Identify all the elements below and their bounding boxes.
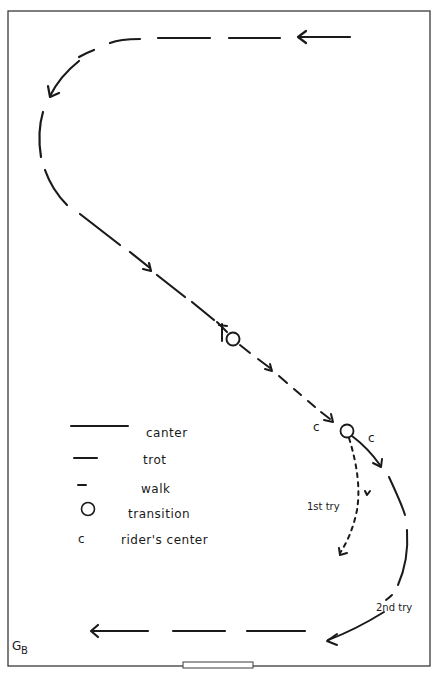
top-path <box>79 31 350 57</box>
second-try-label: 2nd try <box>376 602 412 613</box>
legend-item-rider-center: c rider's center <box>78 532 208 547</box>
arena-diagram: c c 1st try 2nd try G B canter <box>0 0 435 679</box>
rider-center-label-before: c <box>313 420 320 434</box>
legend-item-trot: trot <box>74 453 166 467</box>
first-try-label: 1st try <box>307 501 340 512</box>
legend: canter trot walk transition c rider's ce… <box>71 426 208 547</box>
corner-mark-sub: B <box>21 645 28 656</box>
legend-label-transition: transition <box>128 507 190 521</box>
first-try-path <box>340 438 358 553</box>
bottom-path <box>91 625 305 637</box>
rider-center-label-after: c <box>368 431 375 445</box>
legend-label-canter: canter <box>146 426 188 440</box>
legend-symbol-c: c <box>78 532 85 546</box>
left-curve-path <box>39 61 79 205</box>
legend-label-walk: walk <box>141 482 170 496</box>
legend-item-transition: transition <box>82 503 191 522</box>
second-try-path <box>327 436 407 645</box>
legend-item-walk: walk <box>78 482 170 496</box>
arena-border <box>8 11 430 668</box>
legend-label-rider-center: rider's center <box>121 533 208 547</box>
legend-label-trot: trot <box>143 453 166 467</box>
legend-item-canter: canter <box>71 426 188 440</box>
diagonal-walk-path <box>240 345 333 422</box>
transition-marker-1 <box>217 322 240 346</box>
diagonal-trot-path <box>80 214 214 320</box>
